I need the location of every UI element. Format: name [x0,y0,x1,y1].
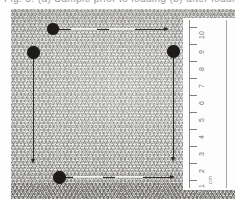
specimen-photograph: 10 9 8 7 6 5 4 3 2 1 cm [11,9,235,199]
gauge-right-arrow-icon [171,157,175,162]
vertical-gauge-left [33,53,34,161]
scale-tick-label: 7 [198,84,205,88]
gauge-marker-top [47,23,59,35]
scale-tick-label: 6 [198,101,205,105]
scale-tick [189,163,197,164]
scale-tick [189,129,197,130]
measurement-scale-panel: 10 9 8 7 6 5 4 3 2 1 cm [183,18,235,190]
scale-tick-label: 1 [198,184,205,188]
gauge-marker-bottom [53,171,66,184]
scale-tick-label: 10 [198,31,205,39]
gauge-bottom-highlight-a [73,176,103,178]
scale-tick-label: 3 [198,152,205,156]
gauge-bottom-arrow-icon [170,175,175,179]
scale-tick-label: 9 [198,50,205,54]
gauge-marker-left [27,46,40,59]
screenshot-root: Fig. 3. (a) Sample prior to loading (b) … [0,0,235,199]
scale-tick-label: 8 [198,67,205,71]
scale-tick-label: 2 [198,169,205,173]
gauge-left-arrow-icon [31,159,35,164]
scale-tick [189,61,197,62]
scale-tick [189,146,197,147]
gauge-bottom-highlight-b [115,176,143,178]
gauge-top-arrow-icon [164,27,169,31]
gauge-top-highlight-b [109,28,135,30]
scale-tick [189,95,197,96]
scale-panel-edge [226,20,227,188]
scale-tick [189,78,197,79]
scale-tick-label: 5 [198,118,205,122]
vertical-gauge-right [173,51,174,159]
gauge-marker-right [167,45,180,58]
scale-tick [189,112,197,113]
scale-tick [189,44,197,45]
scale-tick-label: 4 [198,135,205,139]
figure-caption-strip: Fig. 3. (a) Sample prior to loading (b) … [0,0,235,9]
scale-unit-label: cm [207,175,213,184]
figure-caption: Fig. 3. (a) Sample prior to loading (b) … [4,0,235,4]
scale-tick [189,27,197,28]
gauge-top-highlight-a [71,28,97,30]
scale-tick [189,180,197,181]
